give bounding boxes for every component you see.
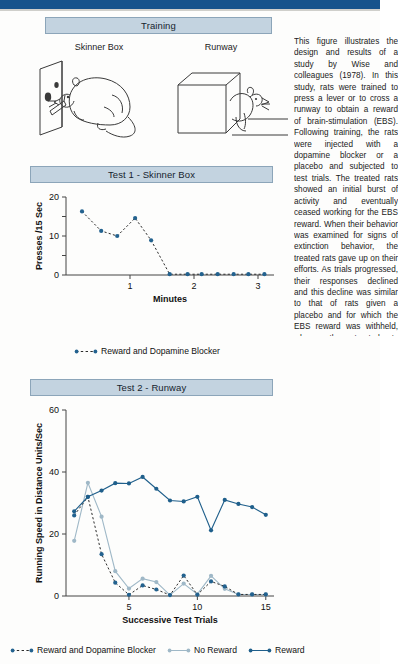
svg-text:Running Speed in Distance Unit: Running Speed in Distance Units/Sec — [34, 423, 44, 583]
svg-text:20: 20 — [49, 192, 59, 202]
caption-text: This figure illustrates the design and r… — [294, 36, 398, 336]
svg-text:0: 0 — [54, 591, 59, 601]
figure-column: Training Skinner Box Runway — [8, 13, 286, 661]
svg-text:5: 5 — [126, 602, 131, 612]
legend-label: No Reward — [194, 645, 237, 655]
figure-caption: This figure illustrates the design and r… — [294, 36, 398, 336]
chart-test2-runway: 020406051015Successive Test TrialsRunnin… — [8, 400, 286, 630]
svg-text:1: 1 — [127, 281, 132, 291]
legend-item-reward-and-dopamine-blocker: Reward and Dopamine Blocker — [74, 346, 220, 356]
svg-text:10: 10 — [192, 602, 202, 612]
svg-text:Presses /15 Sec: Presses /15 Sec — [34, 202, 44, 270]
svg-text:0: 0 — [54, 270, 59, 280]
legend-test1: Reward and Dopamine Blocker — [8, 346, 286, 356]
label-runway: Runway — [185, 42, 257, 52]
label-skinner-box: Skinner Box — [56, 42, 142, 52]
svg-text:15: 15 — [261, 602, 271, 612]
legend-swatch-dashed — [74, 347, 98, 356]
svg-text:2: 2 — [191, 281, 196, 291]
top-rule-shadow — [0, 9, 380, 11]
legend-label: Reward and Dopamine Blocker — [37, 645, 156, 655]
legend-swatch-solid — [248, 646, 272, 655]
legend-item-reward-and-dopamine-blocker: Reward and Dopamine Blocker — [10, 645, 156, 655]
legend-label: Reward — [275, 645, 305, 655]
legend-item-reward: Reward — [248, 645, 305, 655]
rat-exiting-start-box-icon — [174, 57, 294, 141]
legend-item-no-reward: No Reward — [167, 645, 237, 655]
svg-text:Minutes: Minutes — [153, 294, 187, 304]
chart-test1-skinner-box: 01020123MinutesPresses /15 Sec — [8, 187, 286, 305]
svg-text:Successive Test Trials: Successive Test Trials — [122, 615, 217, 625]
svg-text:3: 3 — [255, 281, 260, 291]
legend-swatch-dashed — [10, 646, 34, 655]
svg-text:40: 40 — [49, 467, 59, 477]
banner-test1: Test 1 - Skinner Box — [30, 166, 273, 183]
legend-label: Reward and Dopamine Blocker — [101, 346, 220, 356]
legend-swatch-solid — [167, 646, 191, 655]
banner-test2: Test 2 - Runway — [30, 379, 273, 396]
rat-pressing-lever-icon — [26, 55, 156, 143]
svg-text:20: 20 — [49, 529, 59, 539]
legend-test2: Reward and Dopamine BlockerNo RewardRewa… — [0, 645, 390, 655]
svg-text:10: 10 — [49, 231, 59, 241]
svg-text:60: 60 — [49, 405, 59, 415]
top-blue-rule — [0, 0, 380, 9]
banner-training: Training — [45, 17, 272, 34]
